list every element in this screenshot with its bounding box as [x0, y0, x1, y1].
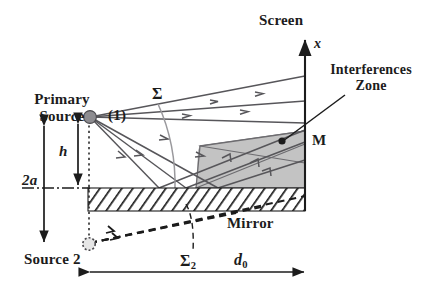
- figure-canvas: Primary Source (1) Source 2 Screen x Int…: [0, 0, 430, 288]
- mirror-label: Mirror: [227, 215, 274, 232]
- source2-dot: [83, 238, 95, 250]
- interferences-zone-label: Interferences Zone: [316, 62, 426, 93]
- sigma-label: Σ: [152, 85, 163, 103]
- ray-incident-3: [90, 117, 159, 188]
- virtual-ray-chevrons: [106, 226, 118, 240]
- point-m-label: M: [312, 132, 326, 149]
- mirror-block: [88, 188, 305, 211]
- source2-label: Source 2: [24, 251, 81, 268]
- dimension-h-label: h: [59, 143, 68, 160]
- screen-label: Screen: [259, 12, 303, 29]
- x-axis-label: x: [314, 36, 321, 52]
- dimension-2a-label: 2a: [22, 172, 37, 189]
- source-index-label: (1): [108, 107, 126, 124]
- ray-incident-2: [90, 117, 186, 188]
- dimension-d0-label: d0: [234, 251, 248, 271]
- ray-virtual-3: [90, 213, 236, 243]
- primary-source-label: Primary Source: [14, 91, 110, 125]
- point-m-dot: [278, 137, 285, 144]
- sigma2-label: Σ2: [180, 252, 196, 272]
